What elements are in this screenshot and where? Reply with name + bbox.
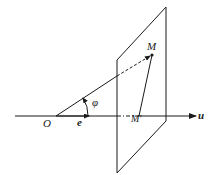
point-m — [150, 53, 153, 56]
label-origin: O — [43, 117, 51, 129]
label-unit-vector: e — [77, 116, 82, 128]
projection-diagram: O e φ M M' u — [0, 0, 220, 175]
segment-mm-prime — [139, 55, 152, 116]
vector-om — [56, 56, 150, 116]
angle-arc-phi — [83, 98, 88, 116]
label-angle: φ — [92, 96, 98, 108]
label-axis: u — [198, 109, 204, 121]
label-projection: M' — [130, 113, 142, 124]
label-point: M — [146, 40, 157, 52]
plane — [117, 7, 166, 173]
